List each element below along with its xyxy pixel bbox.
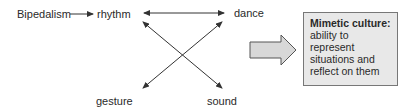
box-title: Mimetic culture: — [310, 17, 391, 29]
big-right-arrow-icon — [250, 35, 296, 65]
node-sound: sound — [207, 95, 237, 107]
mimetic-culture-box: Mimetic culture: ability to represent si… — [303, 12, 398, 86]
node-rhythm: rhythm — [97, 8, 131, 20]
node-bipedalism: Bipedalism — [17, 8, 71, 20]
node-dance: dance — [234, 7, 264, 19]
node-gesture: gesture — [96, 95, 133, 107]
box-body: ability to represent situations and refl… — [310, 29, 391, 77]
